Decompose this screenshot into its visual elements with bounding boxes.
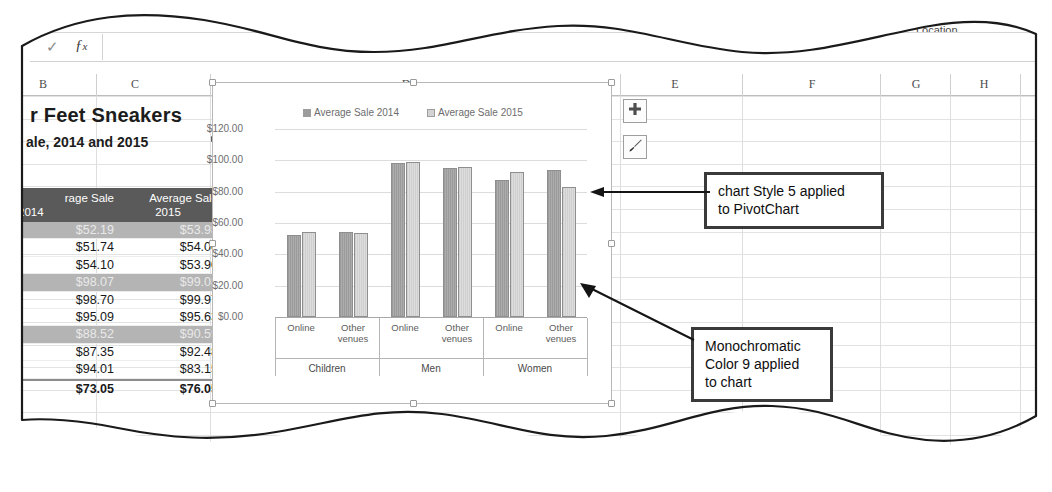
resize-handle-n[interactable] [410,79,417,86]
chart-bar[interactable] [495,180,509,317]
x-axis-category-label: Online [483,322,535,333]
column-header-C[interactable]: C [115,77,155,92]
legend-swatch-icon [303,109,311,117]
header-2014-text: rage Sale [18,191,114,205]
torn-paper-sheet: Chart StylesDataTypeLocation ✓ ƒx BCDEFG… [18,12,1040,480]
resize-handle-nw[interactable] [209,79,216,86]
grid-column-line [950,96,951,480]
chart-bar[interactable] [354,233,368,317]
resize-handle-ne[interactable] [608,79,615,86]
legend-swatch-icon [427,109,435,117]
table-row[interactable]: $94.01$83.15 [18,361,230,378]
x-axis-group-label: Men [379,358,483,374]
cell-average-sale-2015[interactable]: $99.97 [118,293,218,307]
cell-average-sale-2014[interactable]: $88.52 [18,327,114,341]
chart-bar[interactable] [302,232,316,317]
chart-bar[interactable] [391,163,405,317]
column-header-divider [742,74,743,96]
x-axis-category-label: Online [275,322,327,333]
fx-icon[interactable]: ƒx [75,37,87,54]
column-header-H[interactable]: H [964,77,1004,92]
cell-average-sale-2014[interactable]: $98.07 [18,275,114,289]
resize-handle-se[interactable] [608,400,615,407]
callout-chart-style: chart Style 5 applied to PivotChart [704,172,884,229]
ribbon-label-data[interactable]: Data [780,24,803,36]
grid-row-line [18,412,1040,413]
chart-bar[interactable] [562,187,576,317]
grid-column-line [1020,96,1021,480]
column-header-F[interactable]: F [792,77,832,92]
cell-average-sale-2015[interactable]: $92.48 [118,345,218,359]
table-row[interactable]: $87.35$92.48 [18,344,230,361]
cell-average-sale-2014[interactable]: $87.35 [18,345,114,359]
chart-bar[interactable] [510,172,524,317]
chart-elements-button[interactable] [623,99,647,123]
cell-average-sale-2015[interactable]: $76.05 [118,382,218,396]
cell-average-sale-2014[interactable]: $95.09 [18,310,114,324]
chart-bar[interactable] [443,168,457,317]
x-axis-edge-separator [587,318,588,376]
cell-average-sale-2015[interactable]: $83.15 [118,362,218,376]
cell-average-sale-2014[interactable]: $51.74 [18,240,114,254]
cell-average-sale-2014[interactable]: $73.05 [18,382,114,396]
cell-average-sale-2014[interactable]: $52.19 [18,223,114,237]
cell-average-sale-2015[interactable]: $90.59 [118,327,218,341]
x-axis-group-separator [379,318,380,376]
pivot-chart[interactable]: Average Sale 2014Average Sale 2015 $120.… [212,82,612,404]
column-header-E[interactable]: E [655,77,695,92]
paintbrush-icon [628,138,643,157]
chart-styles-button[interactable] [623,135,647,159]
x-axis-category-label: Othervenues [327,322,379,344]
cell-average-sale-2014[interactable]: $54.10 [18,258,114,272]
worksheet-title-line1: r Feet Sneakers [30,104,182,127]
column-header-G[interactable]: G [896,77,936,92]
x-axis-group-separator [483,318,484,376]
legend-label: Average Sale 2014 [314,107,399,118]
plus-icon [628,102,642,120]
table-row[interactable]: $88.52$90.59 [18,326,230,343]
chart-gridline [275,129,587,130]
chart-bar[interactable] [458,167,472,317]
ribbon-label-chart-styles[interactable]: Chart Styles [340,21,400,33]
chart-bar[interactable] [287,235,301,317]
chart-gridline [275,286,587,287]
column-header-B[interactable]: B [23,77,63,92]
resize-handle-e[interactable] [608,240,615,247]
y-axis-tick-label: $80.00 [187,186,243,197]
chart-gridline [275,223,587,224]
callout-monochromatic: Monochromatic Color 9 applied to chart [691,327,833,402]
ribbon-separator [836,16,837,38]
grid-row-line [18,458,1040,459]
chart-gridline [275,160,587,161]
cell-average-sale-2014[interactable]: $98.70 [18,293,114,307]
resize-handle-sw[interactable] [209,400,216,407]
x-axis-category-label: Online [379,322,431,333]
callout-chart-style-line2: to PivotChart [718,200,871,218]
chart-gridline [275,192,587,193]
chart-bar[interactable] [547,170,561,317]
table-row[interactable]: $54.10$53.90 [18,257,230,274]
table-row[interactable]: $73.05$76.05 [18,379,230,399]
cell-average-sale-2015[interactable]: $53.90 [118,258,218,272]
cell-average-sale-2014[interactable]: $94.01 [18,362,114,376]
chart-plot-area: $120.00$100.00$80.00$60.00$40.00$20.00$0… [275,129,587,317]
column-header-divider [1020,74,1021,96]
chart-x-axis: OnlineOthervenuesOnlineOthervenuesOnline… [275,317,587,381]
legend-item-2: Average Sale 2015 [427,107,523,118]
chart-bar[interactable] [406,162,420,317]
formula-input[interactable] [102,34,1032,60]
resize-handle-w[interactable] [209,240,216,247]
grid-column-line [620,96,621,480]
ribbon-label-type[interactable]: Type [863,24,887,36]
column-header-divider [96,74,97,96]
callout-chart-style-line1: chart Style 5 applied [718,182,871,200]
y-axis-tick-label: $0.00 [187,311,243,322]
y-axis-tick-label: $20.00 [187,280,243,291]
x-axis-group-label: Children [275,358,379,374]
table-row[interactable]: $98.70$99.97 [18,292,230,309]
legend-item-1: Average Sale 2014 [303,107,399,118]
resize-handle-s[interactable] [410,400,417,407]
chart-bar[interactable] [339,232,353,317]
check-icon[interactable]: ✓ [46,38,59,56]
legend-label: Average Sale 2015 [438,107,523,118]
